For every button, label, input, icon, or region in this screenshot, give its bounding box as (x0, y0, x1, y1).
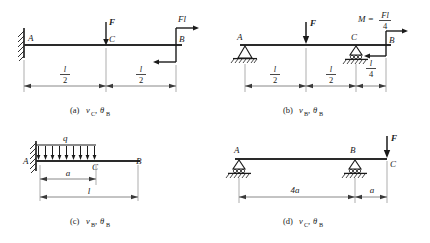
svg-text:(a): (a) (70, 105, 80, 115)
label-point-a: A (27, 33, 34, 43)
dimension-label-a: a (370, 185, 375, 195)
label-point-c: C (390, 159, 397, 169)
svg-text:,: , (308, 216, 310, 226)
force-f-arrow-icon (103, 22, 109, 46)
panel-c-diagram: A B (0, 121, 215, 243)
svg-text:Fl: Fl (380, 10, 389, 20)
svg-text:θ: θ (313, 105, 317, 115)
svg-text:B: B (319, 110, 323, 117)
svg-text:M =: M = (357, 14, 374, 24)
label-point-b: B (389, 35, 395, 45)
svg-text:θ: θ (100, 105, 104, 115)
panel-d-diagram: A B C (215, 121, 430, 243)
panel-b: A F C (215, 0, 430, 122)
label-force-f: F (108, 17, 115, 27)
svg-text:2: 2 (63, 75, 67, 85)
panel-c-caption: (c) v B , θ B (70, 216, 110, 228)
dimension-label-right: l 2 (136, 64, 146, 85)
label-point-c: C (351, 32, 358, 42)
svg-text:B: B (319, 221, 323, 228)
distributed-load-icon (36, 145, 96, 160)
label-force-f: F (309, 18, 316, 28)
svg-text:(d): (d) (283, 216, 293, 226)
label-point-c: C (92, 162, 99, 172)
dimension-label-2: l 2 (326, 64, 336, 85)
dimension-label-a: a (66, 168, 71, 178)
dimension-label-l: l (88, 186, 91, 196)
label-point-a: A (236, 32, 243, 42)
figure-root: A F C Fl B (0, 0, 430, 243)
roller-support-icon (343, 46, 368, 64)
dimension-line-group (239, 161, 387, 203)
svg-text:B: B (106, 221, 110, 228)
panel-d-caption: (d) v C , θ B (283, 216, 323, 228)
couple-moment-icon (364, 28, 408, 58)
dimension-label-3: l 4 (366, 58, 376, 79)
label-couple-fl: Fl (177, 14, 186, 24)
svg-text:B: B (106, 110, 110, 117)
roller-support-a-icon (226, 160, 251, 178)
panel-a-diagram: A F C Fl B (0, 0, 215, 122)
label-point-b: B (136, 156, 142, 166)
dimension-line-group (24, 48, 176, 92)
label-load-q: q (63, 133, 68, 143)
label-point-a: A (233, 145, 240, 155)
label-point-b: B (179, 34, 185, 44)
svg-text:4: 4 (369, 69, 374, 79)
svg-text:v: v (299, 105, 303, 115)
label-point-c: C (109, 34, 116, 44)
svg-text:2: 2 (329, 75, 333, 85)
label-moment-expression: M = Fl 4 (357, 10, 391, 31)
svg-text:v: v (86, 216, 90, 226)
dimension-label-1: l 2 (270, 64, 280, 85)
panel-c: A B (0, 121, 215, 243)
panel-b-caption: (b) v B , θ B (283, 105, 323, 117)
svg-text:,: , (308, 105, 310, 115)
panel-b-diagram: A F C (215, 0, 430, 122)
svg-text:4: 4 (383, 21, 388, 31)
panel-d: A B C (215, 121, 430, 243)
dimension-line-group (245, 48, 386, 92)
panel-a-caption: (a) v C , θ B (70, 105, 110, 117)
force-f-arrow-icon (384, 136, 390, 158)
panel-a: A F C Fl B (0, 0, 215, 122)
pin-support-icon (231, 46, 257, 63)
fixed-wall-support-icon (30, 141, 36, 173)
svg-text:l: l (274, 64, 277, 74)
label-point-a: A (22, 156, 29, 166)
label-force-f: F (390, 133, 397, 143)
fixed-wall-support-icon (18, 28, 24, 61)
svg-text:,: , (95, 105, 97, 115)
dimension-label-4a: 4a (291, 185, 301, 195)
svg-text:(b): (b) (283, 105, 293, 115)
svg-text:θ: θ (100, 216, 104, 226)
svg-text:θ: θ (313, 216, 317, 226)
roller-support-b-icon (342, 160, 367, 178)
svg-text:l: l (370, 58, 373, 68)
svg-text:l: l (64, 64, 67, 74)
dimension-label-left: l 2 (60, 64, 70, 85)
svg-text:2: 2 (139, 75, 143, 85)
force-f-arrow-icon (303, 22, 309, 44)
svg-text:l: l (140, 64, 143, 74)
svg-text:v: v (86, 105, 90, 115)
svg-text:v: v (299, 216, 303, 226)
svg-text:,: , (95, 216, 97, 226)
svg-text:(c): (c) (70, 216, 80, 226)
svg-text:2: 2 (273, 75, 277, 85)
label-point-b: B (350, 145, 356, 155)
svg-text:l: l (330, 64, 333, 74)
